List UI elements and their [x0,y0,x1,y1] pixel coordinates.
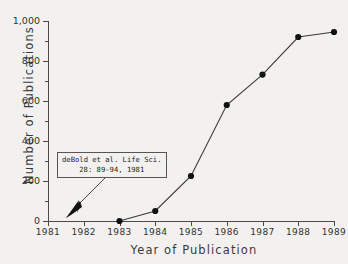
y-tick-label: 600 [0,95,40,106]
data-point-marker [188,173,194,179]
y-tick-label: 400 [0,135,40,146]
x-axis-title: Year of Publication [46,243,342,257]
annotation-line-1: deBold et al. Life Sci. [62,155,162,165]
y-tick-label: 1,000 [0,15,40,26]
y-tick-label: 200 [0,175,40,186]
annotation-arrow-icon [58,176,118,222]
data-point-marker [224,102,230,108]
data-point-marker [152,208,158,214]
data-point-marker [331,29,337,35]
y-tick-label: 0 [0,215,40,226]
annotation-line-2: 28: 89-94, 1981 [62,165,162,175]
data-point-marker [259,72,265,78]
data-point-marker [295,34,301,40]
chart-figure: Number of Publications Year of Publicati… [0,0,348,264]
annotation-citation-box: deBold et al. Life Sci. 28: 89-94, 1981 [57,152,167,178]
y-tick-label: 800 [0,55,40,66]
